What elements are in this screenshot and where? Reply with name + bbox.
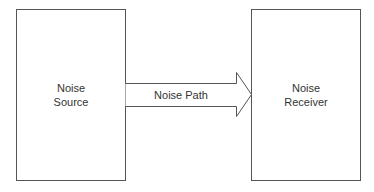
noise-source-label: Noise Source	[16, 81, 126, 109]
noise-source-line2: Source	[16, 95, 126, 109]
noise-source-line1: Noise	[16, 81, 126, 95]
noise-path-label: Noise Path	[126, 88, 236, 102]
noise-receiver-line2: Receiver	[251, 95, 361, 109]
noise-receiver-label: Noise Receiver	[251, 81, 361, 109]
noise-receiver-line1: Noise	[251, 81, 361, 95]
